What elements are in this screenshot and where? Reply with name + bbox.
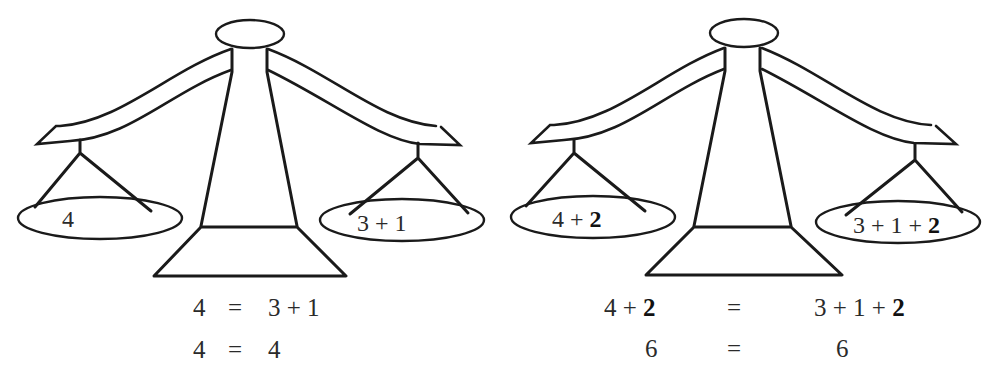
beam-left-arm [531, 48, 724, 143]
equation-2: 6 = 6 [645, 335, 849, 362]
scale-top-knob [216, 20, 284, 48]
equation-1: 4 = 3 + 1 [193, 294, 320, 321]
beam-right-arm [762, 48, 956, 144]
right-pan-label: 3 + 1 + 2 [853, 212, 940, 238]
balance-scales-diagram: 4 3 + 1 4 = 3 + 1 4 = 4 4 + 2 [0, 0, 991, 377]
equation-2: 4 = 4 [193, 336, 281, 363]
beam-left-arm [37, 49, 231, 144]
scale-top-knob [710, 19, 778, 47]
left-pan-label: 4 + 2 [552, 206, 602, 232]
right-pan-label: 3 + 1 [357, 210, 407, 236]
left-pan-label: 4 [62, 206, 74, 232]
left-pan [18, 197, 182, 239]
balance-scale-added: 4 + 2 3 + 1 + 2 4 + 2 = 3 + 1 + 2 6 = 6 [511, 19, 980, 362]
equation-1: 4 + 2 = 3 + 1 + 2 [604, 294, 905, 321]
scale-base [154, 227, 346, 276]
beam-right-arm [268, 49, 460, 145]
scale-base [646, 227, 842, 275]
balance-scale-original: 4 3 + 1 4 = 3 + 1 4 = 4 [18, 20, 484, 363]
